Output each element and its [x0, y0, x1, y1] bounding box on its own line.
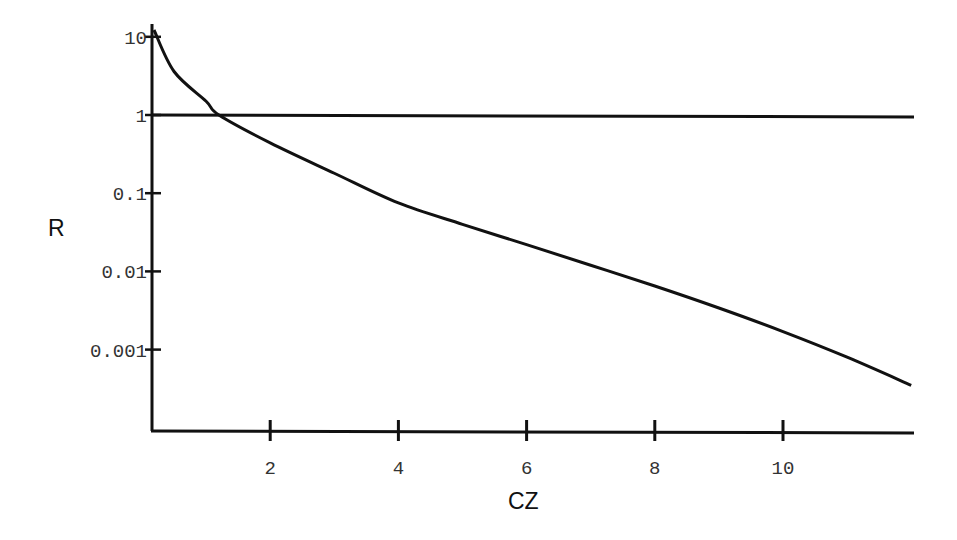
x-tick-label: 10 — [772, 458, 795, 480]
y-tick-label: 0.01 — [101, 262, 147, 284]
x-ticks: 246810 — [264, 420, 794, 480]
x-tick-label: 8 — [649, 458, 660, 480]
reference-line — [152, 115, 914, 117]
x-axis-label: CZ — [508, 488, 539, 514]
y-tick-label: 1 — [136, 106, 147, 128]
y-tick-label: 0.001 — [90, 341, 147, 363]
x-tick-label: 2 — [264, 458, 275, 480]
y-tick-label: 10 — [124, 28, 147, 50]
x-axis — [151, 431, 914, 433]
chart: 1010.10.010.001 246810 R CZ — [0, 0, 957, 540]
y-ticks: 1010.10.010.001 — [90, 28, 161, 363]
data-curve — [154, 30, 911, 385]
x-tick-label: 4 — [393, 458, 404, 480]
x-tick-label: 6 — [521, 458, 532, 480]
y-tick-label: 0.1 — [113, 184, 147, 206]
y-axis-label: R — [48, 215, 65, 241]
